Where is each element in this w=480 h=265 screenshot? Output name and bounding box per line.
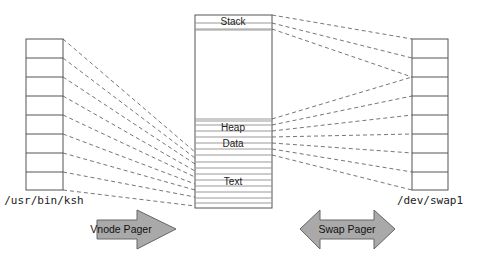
vnode-pager-label: Vnode Pager: [90, 223, 152, 235]
swap-pager-label: Swap Pager: [318, 223, 376, 235]
swap-pager-arrow: Swap Pager: [300, 210, 395, 249]
text-segment-label: Text: [224, 176, 243, 187]
ksh-file-blocks: [26, 39, 63, 190]
swap-mapping-lines: [272, 15, 412, 190]
vnode-pager-arrow: Vnode Pager: [90, 210, 176, 249]
stack-segment-label: Stack: [220, 16, 246, 27]
vnode-mapping-lines: [63, 39, 195, 206]
swap-device-label: /dev/swap1: [397, 194, 463, 207]
memory-mapping-diagram: /usr/bin/ksh /dev/swap1: [0, 0, 480, 265]
heap-segment-label: Heap: [221, 122, 245, 133]
ksh-file-label: /usr/bin/ksh: [4, 194, 83, 207]
data-segment-label: Data: [222, 138, 244, 149]
swap-device-blocks: [412, 39, 448, 190]
